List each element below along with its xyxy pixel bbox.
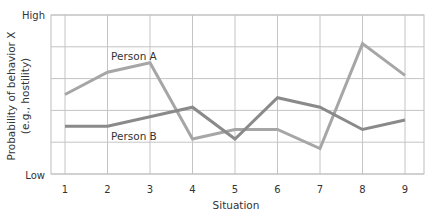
- line-chart: 123456789 High Low Probability of behavi…: [0, 0, 426, 221]
- x-tick-label: 2: [104, 184, 110, 195]
- x-tick-label: 8: [359, 184, 365, 195]
- y-tick-high: High: [22, 10, 45, 21]
- x-tick-label: 5: [232, 184, 238, 195]
- plot-frame: [51, 15, 424, 174]
- series-label-person-a: Person A: [111, 50, 158, 62]
- y-axis-title: Probability of behavior X: [5, 32, 17, 161]
- x-tick-label: 9: [402, 184, 408, 195]
- x-tick-label: 1: [62, 184, 68, 195]
- x-tick-label: 4: [189, 184, 195, 195]
- series-label-person-b: Person B: [111, 130, 157, 142]
- y-tick-low: Low: [25, 170, 45, 181]
- x-axis-ticks: 123456789: [62, 184, 408, 195]
- x-tick-label: 7: [317, 184, 323, 195]
- y-axis-subtitle: (e.g., hostility): [19, 58, 31, 134]
- x-tick-label: 3: [147, 184, 153, 195]
- grid-lines: [51, 15, 424, 174]
- x-tick-label: 6: [274, 184, 280, 195]
- x-axis-title: Situation: [213, 199, 260, 211]
